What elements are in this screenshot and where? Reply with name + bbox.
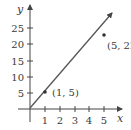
y-tick-label: 20 bbox=[11, 39, 24, 50]
y-tick-label: 25 bbox=[11, 23, 24, 34]
data-point bbox=[43, 90, 47, 94]
line-chart: 1 2 3 4 5 5 10 15 20 25 x y (1, 5) (5, 2… bbox=[0, 0, 131, 130]
y-tick-label: 15 bbox=[11, 56, 24, 67]
point-label: (1, 5) bbox=[52, 87, 79, 98]
x-tick-label: 1 bbox=[42, 115, 48, 126]
x-tick-label: 5 bbox=[101, 115, 107, 126]
point-label: (5, 22 bbox=[107, 40, 131, 51]
y-tick-label: 10 bbox=[11, 72, 24, 83]
x-axis-label: x bbox=[117, 112, 124, 125]
x-tick-label: 2 bbox=[57, 115, 63, 126]
x-tick-label: 4 bbox=[86, 115, 92, 126]
x-tick-label: 3 bbox=[72, 115, 78, 126]
y-tick-label: 5 bbox=[18, 88, 24, 99]
y-axis-label: y bbox=[16, 3, 24, 16]
data-point bbox=[102, 33, 106, 37]
